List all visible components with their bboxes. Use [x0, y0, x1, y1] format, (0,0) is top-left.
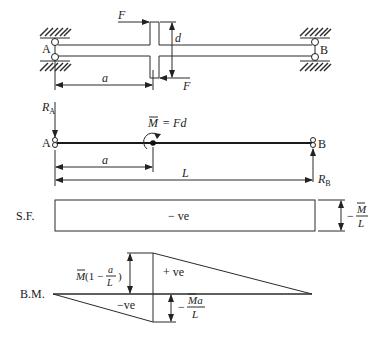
support-a-label: A [42, 42, 51, 56]
right-top-pin-icon [312, 39, 319, 46]
left-top-pin-icon [52, 39, 59, 46]
right-wall-top-hatch-icon [300, 28, 331, 38]
svg-text:L: L [191, 308, 198, 320]
distance-a-label: a [102, 71, 108, 85]
force-top-label: F [117, 8, 126, 22]
reaction-a-label: RA [41, 100, 55, 116]
moment-point-icon [150, 140, 156, 146]
sf-magnitude-prefix: − [347, 209, 354, 223]
svg-text:L: L [106, 277, 113, 288]
sf-magnitude-denominator: L [357, 217, 364, 229]
sf-row-label: S.F. [16, 209, 34, 223]
svg-text:−: − [178, 300, 185, 314]
beam-diagram-canvas: A B F [0, 0, 385, 337]
left-bottom-pin-icon [52, 54, 59, 61]
span-l-label: L [181, 166, 189, 180]
support-b-label: B [320, 43, 328, 57]
bm-negative-region [53, 294, 153, 322]
sf-sign-label: − ve [168, 209, 189, 223]
svg-text:): ) [118, 270, 122, 283]
support-a-pin-top-icon [53, 138, 58, 143]
left-wall-top-hatch-icon [40, 28, 71, 38]
svg-text:Ma: Ma [187, 294, 203, 306]
physical-beam-diagram: A B F [40, 8, 331, 93]
bm-positive-label: + ve [163, 265, 184, 279]
shear-force-diagram: S.F. − ve − M L [16, 200, 368, 231]
beam-with-bracket [58, 22, 312, 78]
bm-negative-value: − Ma L [178, 294, 205, 320]
support-a-label-2: A [42, 136, 51, 150]
bm-negative-label: −ve [117, 298, 135, 312]
support-b-label-2: B [318, 137, 326, 151]
svg-text:(1 −: (1 − [85, 270, 103, 283]
right-bottom-pin-icon [312, 54, 319, 61]
bending-moment-diagram: B.M. + ve −ve M (1 − a L ) − Ma L [20, 253, 312, 322]
reaction-b-label: RB [317, 172, 331, 188]
force-bottom-label: F [182, 79, 191, 93]
support-b-pin-bottom-icon [311, 143, 316, 148]
offset-d-label: d [175, 31, 182, 45]
svg-text:a: a [108, 264, 113, 275]
moment-label: M= Fd [147, 116, 187, 130]
distance-a-label-2: a [102, 153, 108, 167]
support-a-pin-bottom-icon [53, 143, 58, 148]
bm-positive-value: M (1 − a L ) [75, 264, 122, 288]
support-b-pin-top-icon [311, 138, 316, 143]
bm-row-label: B.M. [20, 287, 45, 301]
sf-magnitude-numerator: M [356, 203, 367, 215]
right-wall-bottom-hatch-icon [300, 61, 331, 71]
loading-diagram: RA A M= Fd B RB a L [41, 100, 331, 188]
